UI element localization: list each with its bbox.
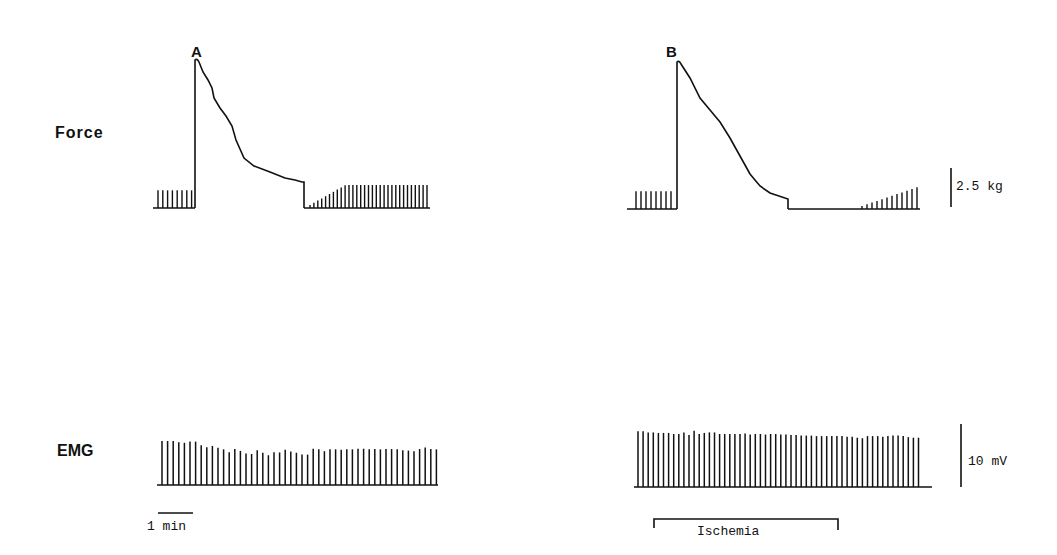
traces (0, 0, 1057, 555)
